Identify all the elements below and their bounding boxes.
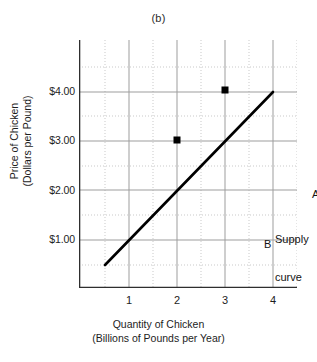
plot-area: A B Supply curve bbox=[79, 40, 297, 288]
supply-curve-label-line1: Supply bbox=[275, 233, 309, 246]
x-axis-title: Quantity of Chicken (Billions of Pounds … bbox=[0, 318, 317, 345]
x-axis-tick-labels: 1 2 3 4 bbox=[0, 294, 317, 310]
x-axis-title-line1: Quantity of Chicken bbox=[0, 318, 317, 332]
grid-horizontal-solid bbox=[79, 92, 297, 240]
grid-horizontal-dotted bbox=[79, 67, 297, 265]
x-tick-label-1: 1 bbox=[117, 294, 141, 306]
y-axis-title-line2: (Dollars per Pound) bbox=[21, 76, 34, 206]
supply-curve-label-line2: curve bbox=[275, 271, 309, 284]
x-tick-label-2: 2 bbox=[165, 294, 189, 306]
point-a-label: A bbox=[312, 188, 317, 201]
y-tick-label-3: $3.00 bbox=[31, 134, 75, 146]
y-tick-label-2: $2.00 bbox=[31, 184, 75, 196]
supply-curve-label: Supply curve bbox=[275, 208, 309, 308]
grid-vertical-dotted bbox=[105, 40, 297, 288]
y-axis-title: Price of Chicken (Dollars per Pound) bbox=[8, 76, 34, 206]
point-marker-a bbox=[222, 87, 229, 94]
x-axis-title-line2: (Billions of Pounds per Year) bbox=[0, 332, 317, 346]
chart-page: (b) bbox=[0, 0, 317, 362]
y-axis-title-line1: Price of Chicken bbox=[8, 76, 21, 206]
supply-curve-line bbox=[105, 92, 273, 265]
plot-svg bbox=[79, 40, 297, 288]
point-marker-b bbox=[174, 137, 181, 144]
x-tick-label-4: 4 bbox=[261, 294, 285, 306]
point-b-label: B bbox=[264, 238, 271, 251]
y-tick-label-1: $1.00 bbox=[31, 233, 75, 245]
y-tick-label-4: $4.00 bbox=[31, 85, 75, 97]
x-tick-label-3: 3 bbox=[213, 294, 237, 306]
